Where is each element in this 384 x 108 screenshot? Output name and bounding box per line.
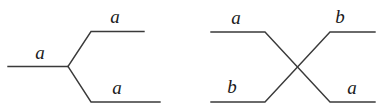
label-outgoing-bottom-right: a [347, 78, 357, 97]
label-outgoing-top-right: b [335, 7, 345, 26]
splitting-vertex-diagram [8, 32, 160, 103]
figure-canvas: a a a a b b a [0, 0, 384, 108]
label-outgoing-top: a [110, 7, 120, 26]
label-incoming-left: a [35, 43, 45, 62]
outgoing-strand-upper [68, 32, 144, 67]
label-incoming-bottom-left: b [227, 77, 237, 96]
label-incoming-top-left: a [231, 8, 241, 27]
label-outgoing-bottom: a [112, 78, 122, 97]
diagram-strokes [0, 0, 384, 108]
